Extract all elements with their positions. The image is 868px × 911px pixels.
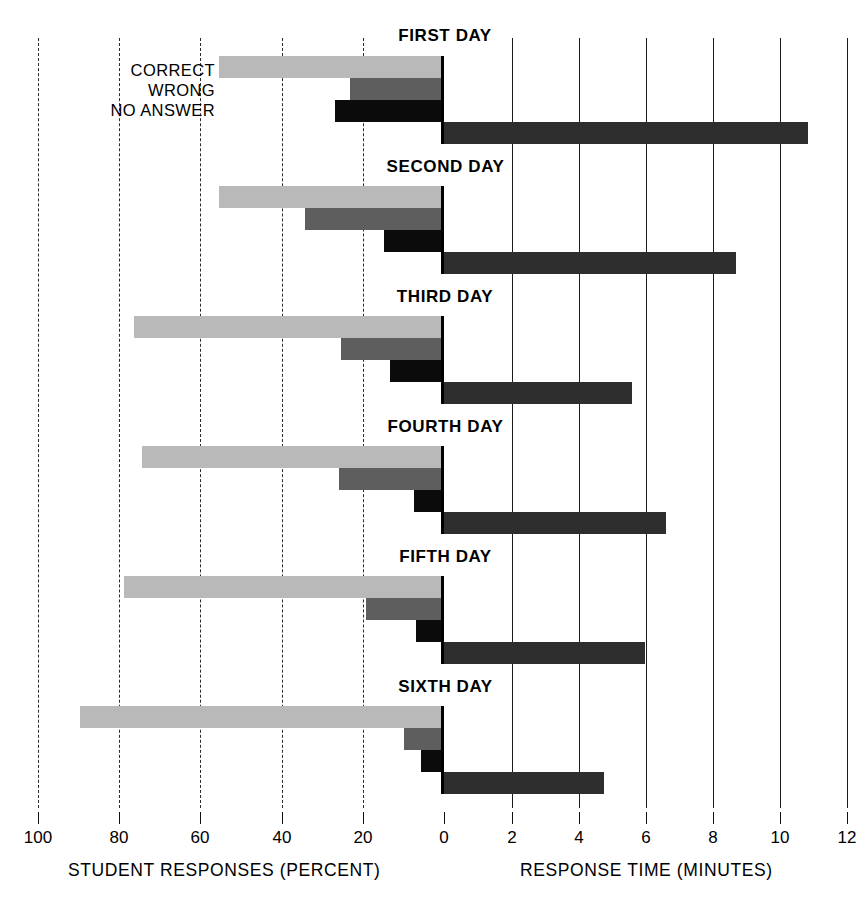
bar-response-time-d2 [444,252,736,274]
tick-label-time-10: 10 [760,828,800,848]
group-title-sixth-day: SIXTH DAY [378,677,513,697]
zero-axis-d6 [441,706,444,794]
bar-correct-d2 [219,186,441,208]
group-title-first-day: FIRST DAY [380,26,510,46]
zero-axis-d2 [441,186,444,274]
bar-response-time-d3 [444,382,632,404]
bar-wrong-d3 [341,338,441,360]
bar-no-answer-d2 [384,230,441,252]
gridline-80 [119,38,120,808]
tick-label-time-8: 8 [693,828,733,848]
bar-wrong-d2 [305,208,441,230]
bar-correct-d1 [219,56,441,78]
axis-tick-labels: 100 80 60 40 20 0 2 4 6 8 10 12 [0,828,868,854]
bar-correct-d5 [124,576,441,598]
bar-no-answer-d5 [416,620,441,642]
tick-label-time-2: 2 [492,828,532,848]
bar-correct-d6 [80,706,441,728]
gridline-100 [38,38,39,808]
tick-label-100: 100 [18,828,58,848]
left-axis-title: STUDENT RESPONSES (PERCENT) [68,860,380,881]
tick-label-time-12: 12 [827,828,867,848]
legend-wrong: WRONG [70,80,215,100]
tickmark-60 [200,812,201,824]
bar-wrong-d6 [404,728,441,750]
tickmark-80 [119,812,120,824]
gridline-time-10 [780,38,781,808]
group-title-fourth-day: FOURTH DAY [368,417,523,437]
tickmark-0 [444,812,445,824]
bar-wrong-d4 [339,468,441,490]
tick-label-time-4: 4 [559,828,599,848]
tickmark-time-8 [713,812,714,824]
tickmark-40 [282,812,283,824]
tickmark-100 [38,812,39,824]
tick-label-0: 0 [424,828,464,848]
bar-response-time-d5 [444,642,645,664]
plot-area: CORRECT WRONG NO ANSWER FIRST DAY SECOND… [0,0,868,822]
gridline-time-12 [847,38,848,808]
legend-no-answer: NO ANSWER [70,100,215,120]
right-axis-title: RESPONSE TIME (MINUTES) [520,860,773,881]
bar-no-answer-d6 [421,750,441,772]
tick-label-20: 20 [343,828,383,848]
tickmark-time-10 [780,812,781,824]
gridline-time-6 [646,38,647,808]
gridline-40 [282,38,283,808]
bar-response-time-d1 [444,122,808,144]
zero-axis-d3 [441,316,444,404]
tick-label-40: 40 [262,828,302,848]
group-title-fifth-day: FIFTH DAY [378,547,513,567]
group-title-third-day: THIRD DAY [375,287,515,307]
tick-label-80: 80 [99,828,139,848]
zero-axis-d1 [441,56,444,144]
bar-correct-d4 [142,446,441,468]
tickmark-time-6 [646,812,647,824]
bar-no-answer-d1 [335,100,441,122]
bar-response-time-d6 [444,772,604,794]
chart-root: CORRECT WRONG NO ANSWER FIRST DAY SECOND… [0,0,868,911]
zero-axis-d4 [441,446,444,534]
bar-wrong-d5 [366,598,441,620]
tickmark-20 [363,812,364,824]
bar-correct-d3 [134,316,441,338]
tick-label-60: 60 [180,828,220,848]
bar-wrong-d1 [350,78,441,100]
bar-response-time-d4 [444,512,666,534]
gridline-60 [200,38,201,808]
tickmark-time-2 [512,812,513,824]
tickmark-time-12 [847,812,848,824]
gridline-20 [363,38,364,808]
group-title-second-day: SECOND DAY [368,157,523,177]
bar-no-answer-d3 [390,360,441,382]
bar-no-answer-d4 [414,490,441,512]
tickmark-time-4 [579,812,580,824]
zero-axis-d5 [441,576,444,664]
legend-correct: CORRECT [70,60,215,80]
gridline-time-4 [579,38,580,808]
tick-label-time-6: 6 [626,828,666,848]
gridline-time-8 [713,38,714,808]
